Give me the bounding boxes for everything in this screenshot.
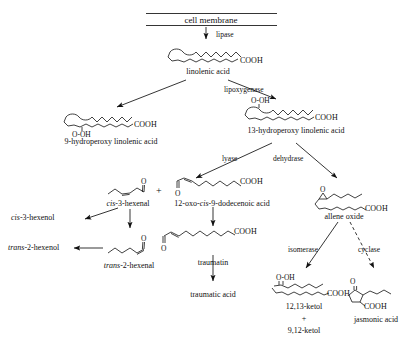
cooh-group: COOH: [134, 120, 157, 129]
node-ketol-2-label: 9,12-ketol: [288, 327, 321, 335]
node-dodecenoic-acid-label: 12-oxo-cis-9-dodecenoic acid: [174, 200, 269, 208]
structure-9-hydroperoxy: O-OH COOH: [60, 111, 170, 139]
dodecenoic-prefix: 12-oxo-: [174, 199, 199, 208]
enzyme-dehydrase-label: dehydrase: [273, 155, 303, 163]
cell-membrane-label: cell membrane: [184, 16, 237, 25]
node-13-hydroperoxy-label: 13-hydroperoxy linolenic acid: [248, 127, 345, 135]
o-oh-group: O-OH: [276, 273, 295, 282]
arrow-to-cis-3-hexenol: [85, 208, 118, 219]
node-9-hydroperoxy-label: 9-hydroperoxy linolenic acid: [65, 138, 158, 146]
enzyme-lyase-label: lyase: [222, 155, 237, 163]
node-trans-2-hexenol-label: trans-2-hexenol: [8, 244, 59, 252]
cooh-group: COOH: [240, 177, 263, 186]
enzyme-lipase-label: lipase: [216, 31, 234, 39]
structure-cis-3-hexenal: O: [106, 178, 154, 200]
cis-3-hexenol-rest: -3-hexenol: [20, 213, 55, 222]
cis-3-hexenol-prefix: cis: [11, 213, 20, 222]
cooh-group: COOH: [365, 204, 388, 213]
node-jasmonic-acid-label: jasmonic acid: [354, 316, 398, 324]
structure-linolenic-acid: COOH: [166, 47, 266, 67]
structure-13-hydroperoxy: O-OH COOH: [243, 95, 353, 127]
node-traumatic-acid-label: traumatic acid: [190, 291, 236, 299]
oxygen-atom: O: [350, 277, 356, 286]
node-traumatin-label: traumatin: [198, 259, 229, 267]
structure-jasmonic-acid: O COOH: [348, 276, 410, 310]
cis-3-hexenal-rest: -3-hexenal: [115, 199, 149, 208]
structure-dodecenoic-acid: O COOH: [172, 176, 272, 200]
plus-sign-label: +: [156, 186, 162, 196]
node-cis-3-hexenal-label: cis-3-hexenal: [106, 200, 149, 208]
oxygen-atom: O: [141, 234, 147, 243]
enzyme-isomerase-label: isomerase: [288, 246, 318, 254]
node-ketol-1-label: 12,13-ketol: [286, 303, 323, 311]
trans-2-hexenol-prefix: trans: [8, 243, 24, 252]
dodecenoic-rest: -9-dodecenoic acid: [209, 199, 270, 208]
trans-2-hexenal-prefix: trans: [104, 261, 120, 270]
structure-allene-oxide: O COOH: [310, 184, 405, 214]
arrow-to-9-hpod: [117, 80, 186, 107]
cooh-group: COOH: [240, 56, 263, 65]
node-trans-2-hexenal-label: trans-2-hexenal: [104, 262, 155, 270]
node-linolenic-acid-label: linolenic acid: [186, 68, 229, 76]
cooh-group: COOH: [234, 227, 257, 236]
enzyme-cyclase-label: cyclase: [358, 246, 380, 254]
node-cis-3-hexenol-label: cis-3-hexenol: [11, 214, 55, 222]
ketol-plus-label: +: [302, 315, 307, 323]
trans-2-hexenal-rest: -2-hexenal: [120, 261, 154, 270]
oxygen-atom: O: [175, 189, 181, 198]
structure-trans-2-hexenal: O: [106, 235, 154, 259]
dodecenoic-cis: cis: [200, 199, 209, 208]
cooh-group: COOH: [364, 302, 387, 311]
oxygen-atom: O: [141, 177, 147, 186]
enzyme-lipoxygenase-label: lipoxygenase: [224, 86, 264, 94]
o-oh-group: O-OH: [72, 130, 91, 139]
oxygen-atom: O: [161, 244, 167, 253]
cooh-group: COOH: [315, 113, 338, 122]
structure-traumatin: O COOH: [158, 226, 268, 252]
cis-3-hexenal-prefix: cis: [106, 199, 115, 208]
trans-2-hexenol-rest: -2-hexenol: [24, 243, 59, 252]
o-oh-group: O-OH: [251, 96, 270, 105]
node-allene-oxide-label: allene oxide: [325, 213, 364, 221]
cooh-group: COOH: [327, 289, 350, 298]
